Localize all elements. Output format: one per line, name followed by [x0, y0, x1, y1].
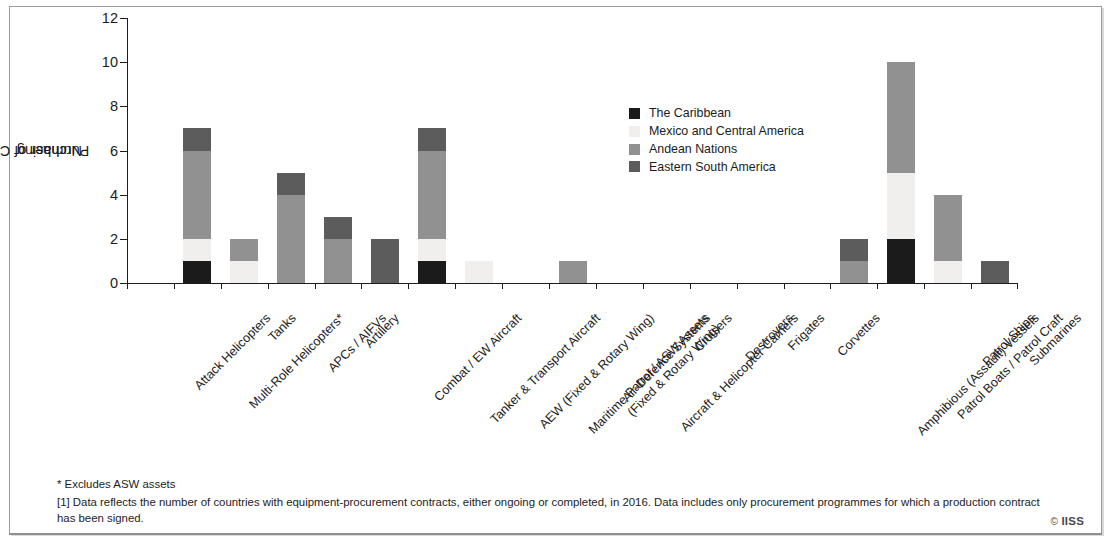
- x-axis-tick: [408, 283, 409, 289]
- bottom-rule: [9, 533, 1102, 535]
- bar-tanks[interactable]: [230, 239, 258, 283]
- bar-segment: [371, 239, 399, 283]
- bar-submarines[interactable]: [981, 261, 1009, 283]
- bar-segment: [183, 128, 211, 150]
- bar-segment: [418, 128, 446, 150]
- legend-item[interactable]: Mexico and Central America: [629, 125, 804, 137]
- bar-segment: [840, 239, 868, 261]
- legend-label: Mexico and Central America: [649, 125, 804, 137]
- x-axis-tick: [924, 283, 925, 289]
- y-axis-title-line2: Purchasing: [0, 141, 120, 160]
- bar-segment: [559, 261, 587, 283]
- legend-swatch-icon: [629, 126, 640, 137]
- y-axis-tick: [120, 62, 128, 63]
- y-axis-tick: [120, 18, 128, 19]
- bar-apcs-aifvs[interactable]: [277, 173, 305, 283]
- legend-label: The Caribbean: [649, 107, 731, 119]
- legend-swatch-icon: [629, 161, 640, 172]
- chart-figure: Number of CountriesPurchasing 024681012 …: [0, 0, 1111, 541]
- x-axis-tick: [971, 283, 972, 289]
- footnotes: * Excludes ASW assets [1] Data reflects …: [57, 476, 1057, 527]
- bar-segment: [230, 261, 258, 283]
- bar-segment: [324, 217, 352, 239]
- x-axis-tick: [737, 283, 738, 289]
- bar-segment: [324, 239, 352, 283]
- x-axis-tick: [315, 283, 316, 289]
- y-axis-tick: [120, 239, 128, 240]
- legend-label: Andean Nations: [649, 143, 737, 155]
- asterisk-note: * Excludes ASW assets: [57, 476, 1057, 492]
- bar-segment: [418, 239, 446, 261]
- bar-segment: [183, 151, 211, 239]
- bar-segment: [981, 261, 1009, 283]
- legend-item[interactable]: Eastern South America: [629, 161, 804, 173]
- x-axis-line: [127, 283, 1018, 284]
- bar-combat-ew-aircraft[interactable]: [371, 239, 399, 283]
- x-axis-tick: [455, 283, 456, 289]
- y-axis-tick-label: 12: [102, 10, 118, 26]
- source-footnote: [1] Data reflects the number of countrie…: [57, 494, 1057, 526]
- x-axis-tick: [268, 283, 269, 289]
- legend-label: Eastern South America: [649, 161, 776, 173]
- bar-segment: [887, 62, 915, 172]
- y-axis-title: Number of CountriesPurchasing: [14, 18, 54, 283]
- bar-segment: [934, 195, 962, 261]
- x-axis-tick: [221, 283, 222, 289]
- x-axis-tick: [549, 283, 550, 289]
- x-axis-tick: [502, 283, 503, 289]
- y-axis-tick-label: 2: [110, 231, 118, 247]
- plot-area: 024681012 Attack HelicoptersMulti-Role H…: [127, 18, 1018, 283]
- bar-segment: [934, 261, 962, 283]
- x-axis-tick: [174, 283, 175, 289]
- y-axis-tick-label: 6: [110, 143, 118, 159]
- legend-item[interactable]: Andean Nations: [629, 143, 804, 155]
- credit-text: IISS: [1061, 515, 1084, 527]
- x-axis-tick: [784, 283, 785, 289]
- bar-segment: [277, 173, 305, 195]
- bar-segment: [418, 151, 446, 239]
- x-axis-tick: [1017, 283, 1018, 289]
- bar-segment: [183, 239, 211, 261]
- y-axis-tick: [120, 195, 128, 196]
- bar-artillery[interactable]: [324, 217, 352, 283]
- x-axis-tick: [877, 283, 878, 289]
- bar-segment: [230, 239, 258, 261]
- legend-item[interactable]: The Caribbean: [629, 107, 804, 119]
- copyright-icon: ©: [1050, 516, 1058, 527]
- x-axis-tick: [127, 283, 128, 289]
- x-axis-tick: [361, 283, 362, 289]
- bar-aew-fixed-rotary-wing[interactable]: [465, 261, 493, 283]
- y-axis-tick-label: 4: [110, 187, 118, 203]
- bar-segment: [840, 261, 868, 283]
- x-axis-tick: [596, 283, 597, 289]
- y-axis-tick: [120, 106, 128, 107]
- bar-amphibious-assault-vessels[interactable]: [840, 239, 868, 283]
- legend-swatch-icon: [629, 144, 640, 155]
- x-axis-tick: [830, 283, 831, 289]
- chart-legend: The CaribbeanMexico and Central AmericaA…: [629, 107, 804, 179]
- y-axis-tick-label: 10: [102, 54, 118, 70]
- bar-tanker-transport-aircraft[interactable]: [418, 128, 446, 283]
- copyright-credit: © IISS: [1050, 515, 1084, 527]
- bar-segment: [183, 261, 211, 283]
- bar-segment: [418, 261, 446, 283]
- bar-air-defence-systems[interactable]: [559, 261, 587, 283]
- legend-swatch-icon: [629, 108, 640, 119]
- bar-segment: [887, 239, 915, 283]
- bar-patrol-boats-patrol-craft[interactable]: [887, 62, 915, 283]
- bar-patrol-ships[interactable]: [934, 195, 962, 283]
- y-axis-tick-label: 8: [110, 98, 118, 114]
- x-axis-tick: [690, 283, 691, 289]
- bar-segment: [277, 195, 305, 283]
- x-axis-tick: [643, 283, 644, 289]
- bar-segment: [887, 173, 915, 239]
- bar-multi-role-helicopters[interactable]: [183, 128, 211, 283]
- y-axis-tick: [120, 151, 128, 152]
- y-axis-tick-label: 0: [110, 275, 118, 291]
- bar-segment: [465, 261, 493, 283]
